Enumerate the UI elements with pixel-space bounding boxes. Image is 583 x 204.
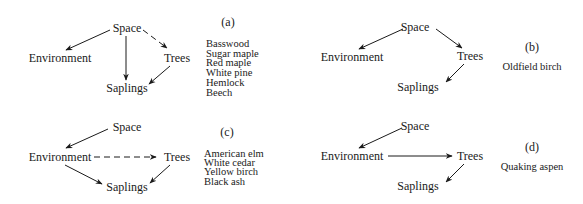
panel-label: (b) <box>525 40 539 54</box>
arrow-trees-to-saplings <box>446 64 464 82</box>
node-saplings: Saplings <box>397 179 439 193</box>
panel-d: Space Environment Trees Saplings (d) Qua… <box>321 119 564 193</box>
panel-label: (a) <box>221 15 234 29</box>
node-trees: Trees <box>164 150 191 164</box>
path-diagram-figure: Space Environment Trees Saplings (a) Bas… <box>0 0 583 204</box>
arrow-space-to-trees <box>436 29 462 48</box>
panel-b: Space Environment Trees Saplings (b) Old… <box>321 20 563 94</box>
species-item: Black ash <box>204 176 246 187</box>
node-environment: Environment <box>321 149 384 163</box>
arrow-environment-to-saplings <box>65 165 102 184</box>
arrow-space-to-environment <box>66 30 110 50</box>
node-environment: Environment <box>29 150 92 164</box>
species-item: Oldfield birch <box>502 61 562 72</box>
node-saplings: Saplings <box>397 80 439 94</box>
arrow-trees-to-saplings <box>446 164 464 182</box>
node-saplings: Saplings <box>106 81 148 95</box>
arrow-space-to-trees-dashed <box>143 30 167 48</box>
arrow-space-to-environment <box>359 128 402 148</box>
panel-a: Space Environment Trees Saplings (a) Bas… <box>29 15 259 98</box>
node-space: Space <box>113 120 142 134</box>
species-list: American elm White cedar Yellow birch Bl… <box>204 148 264 187</box>
panel-label: (d) <box>525 140 539 154</box>
arrow-space-to-environment <box>359 29 403 49</box>
node-space: Space <box>401 119 430 133</box>
node-trees: Trees <box>457 149 484 163</box>
node-space: Space <box>113 21 142 35</box>
arrow-trees-to-saplings <box>149 66 170 84</box>
arrow-trees-to-saplings <box>150 165 170 183</box>
panel-c: Space Environment Trees Saplings (c) Ame… <box>29 120 264 194</box>
node-trees: Trees <box>164 51 191 65</box>
node-saplings: Saplings <box>106 180 148 194</box>
species-item: Quaking aspen <box>501 161 564 172</box>
species-item: Beech <box>206 87 233 98</box>
arrow-space-to-environment <box>66 129 108 148</box>
species-list: Basswood Sugar maple Red maple White pin… <box>206 38 259 98</box>
node-environment: Environment <box>321 50 384 64</box>
node-trees: Trees <box>457 49 484 63</box>
panel-label: (c) <box>220 125 233 139</box>
node-environment: Environment <box>29 51 92 65</box>
node-space: Space <box>401 20 430 34</box>
